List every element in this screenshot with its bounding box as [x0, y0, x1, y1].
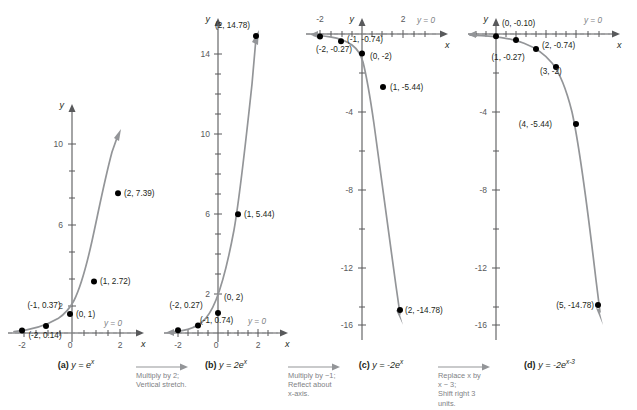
y-axis-label: y	[349, 14, 355, 24]
point-label: (3, -2)	[540, 67, 562, 76]
data-point	[253, 33, 259, 39]
point-label: (1, -5.44)	[390, 83, 423, 92]
curve-b-path	[170, 38, 256, 332]
panel-a-letter: (a)	[58, 360, 69, 370]
panel-b-equation: y = 2ex	[219, 360, 247, 370]
y-tick-label: -16	[475, 320, 488, 330]
x-axis-arrowhead-c	[440, 31, 448, 38]
panel-d-graph: -4 -8 -12 -16 x y (0, -0.10) (1, -0.27) …	[462, 0, 637, 410]
panel-d-equation: y = -2ex-3	[538, 360, 575, 370]
asymptote-label: y = 0	[583, 16, 602, 25]
point-label: (0, 1)	[76, 310, 95, 319]
y-tick-label: 14	[201, 49, 211, 59]
curve-arrowhead-a	[114, 129, 121, 141]
data-point	[533, 46, 539, 52]
y-tick-label: -4	[345, 107, 353, 117]
point-label: (2, -14.78)	[405, 306, 443, 315]
x-tick-label: -2	[316, 14, 324, 24]
transition-caption-b-to-c: Multiply by −1; Reflect about x-axis.	[288, 371, 346, 399]
panel-a-equation: y = ex	[71, 360, 94, 370]
panel-c-letter: (c)	[359, 360, 370, 370]
y-tick-label: -12	[475, 263, 488, 273]
point-label: (4, -5.44)	[519, 120, 552, 129]
panel-c-equation: y = -2ex	[372, 360, 403, 370]
transition-line-1: Replace x by	[438, 371, 494, 380]
point-label: (-2, -0.27)	[316, 45, 352, 54]
y-tick-label: -8	[479, 185, 487, 195]
data-point	[235, 211, 241, 217]
point-label: (-1, 0.74)	[200, 316, 233, 325]
panel-b: -2 0 2 2 6 10 14 x y (-2, 0.27) (-1, 0.7…	[152, 0, 300, 410]
asymptote-label: y = 0	[247, 317, 266, 326]
point-label: (-2, 0.27)	[169, 301, 202, 310]
y-tick-label: 10	[54, 139, 64, 149]
transition-line-2: x − 3;	[438, 380, 494, 389]
x-axis-arrowhead-b	[280, 330, 288, 337]
x-axis-arrowhead-d	[612, 31, 620, 38]
x-axis-arrowhead-a	[136, 330, 144, 337]
panel-c: -2 2 -4 -8 -12 -16 x y (-2, -0.27) (-1, …	[300, 0, 462, 410]
data-point	[513, 37, 519, 43]
y-tick-label: 2	[205, 289, 210, 299]
y-axis-label: y	[59, 100, 65, 110]
point-label: (0, -2)	[370, 52, 392, 61]
data-point	[493, 33, 499, 39]
curve-left-arrowhead-c	[310, 31, 318, 38]
y-axis-arrowhead-a	[69, 104, 76, 112]
x-axis-label: x	[444, 40, 450, 50]
panel-d: -4 -8 -12 -16 x y (0, -0.10) (1, -0.27) …	[462, 0, 637, 410]
panel-a: -2 0 2 2 6 10 x y (-2, 0.14) (-1, 0.37) …	[0, 0, 152, 410]
y-tick-label: 10	[201, 129, 211, 139]
curve-left-arrowhead-d	[468, 31, 476, 38]
point-label: (2, 14.78)	[215, 21, 250, 30]
data-point	[380, 84, 386, 90]
y-tick-label: -4	[479, 107, 487, 117]
point-label: (5, -14.78)	[556, 301, 594, 310]
y-axis-label: y	[483, 14, 489, 24]
transition-line-3: Shift right 3	[438, 389, 494, 398]
point-label: (-1, 0.37)	[27, 301, 60, 310]
data-point	[595, 302, 601, 308]
y-tick-label: -8	[345, 185, 353, 195]
x-tick-label: 0	[214, 340, 219, 350]
x-tick-label: 2	[118, 340, 123, 350]
asymptote-label: y = 0	[416, 16, 435, 25]
point-label: (1, 2.72)	[100, 277, 131, 286]
point-label: (1, 5.44)	[244, 210, 275, 219]
transition-line-4: units.	[438, 399, 494, 408]
panel-b-letter: (b)	[205, 360, 217, 370]
data-point	[573, 121, 579, 127]
x-tick-label: 0	[68, 340, 73, 350]
data-point	[91, 279, 97, 285]
transition-caption-a-to-b: Multiply by 2; Vertical stretch.	[136, 371, 196, 389]
transition-line-3: x-axis.	[288, 389, 346, 398]
x-axis-label: x	[284, 339, 290, 349]
curve-left-arrowhead-b	[166, 329, 174, 336]
data-point	[359, 51, 365, 57]
exponential-transformations-figure: -2 0 2 2 6 10 x y (-2, 0.14) (-1, 0.37) …	[0, 0, 637, 410]
panel-a-graph: -2 0 2 2 6 10 x y (-2, 0.14) (-1, 0.37) …	[0, 0, 152, 410]
point-label: (0, 2)	[224, 293, 243, 302]
point-label: (0, -0.10)	[502, 19, 535, 28]
point-label: (-2, 0.14)	[28, 331, 61, 340]
y-axis-arrowhead-c	[359, 18, 366, 26]
data-point	[67, 311, 73, 317]
transition-line-2: Reflect about	[288, 380, 346, 389]
panel-a-caption: (a) y = ex	[0, 354, 152, 372]
y-tick-label: -16	[341, 320, 354, 330]
data-point	[115, 190, 121, 196]
data-point	[317, 34, 323, 40]
transition-caption-c-to-d: Replace x by x − 3; Shift right 3 units.	[438, 371, 494, 408]
data-point	[397, 307, 403, 313]
data-point	[19, 328, 25, 334]
point-label: (1, -0.27)	[491, 53, 524, 62]
y-tick-label: 6	[58, 220, 63, 230]
x-tick-label: -2	[174, 340, 182, 350]
data-point	[175, 327, 181, 333]
curve-c-path	[314, 36, 400, 315]
point-label: (-1, -0.74)	[347, 35, 383, 44]
x-tick-label: 2	[256, 340, 261, 350]
x-axis-label: x	[616, 40, 622, 50]
asymptote-label: y = 0	[103, 319, 122, 328]
panel-d-letter: (d)	[524, 360, 536, 370]
